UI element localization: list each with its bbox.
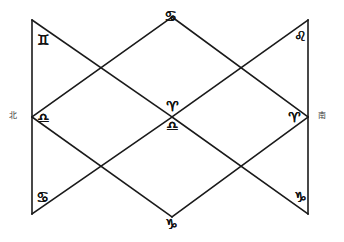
south-marker: 南 xyxy=(318,112,326,120)
zodiac-glyph-aries-mid-right: ♈ xyxy=(288,110,301,124)
zodiac-glyph-libra-mid-left: ♎ xyxy=(37,111,50,125)
zodiac-diagram: 北 南 ♊♋♌♎♈♎♈♋♑♑ xyxy=(0,0,344,242)
zodiac-glyph-gemini-top-left: ♊ xyxy=(37,33,50,47)
zodiac-glyph-libra-center-lower: ♎ xyxy=(166,119,179,133)
north-marker: 北 xyxy=(9,112,17,120)
zodiac-glyph-capricorn-bottom-right: ♑ xyxy=(294,190,307,204)
zodiac-glyph-capricorn-bottom-center: ♑ xyxy=(165,217,178,231)
zodiac-glyph-cancer-bottom-left: ♋ xyxy=(36,190,49,204)
line-segments xyxy=(32,17,308,217)
zodiac-glyph-leo-top-right: ♌ xyxy=(294,29,307,43)
zodiac-glyph-aries-center-upper: ♈ xyxy=(166,99,179,113)
zodiac-glyph-cancer-top-center: ♋ xyxy=(164,9,177,23)
